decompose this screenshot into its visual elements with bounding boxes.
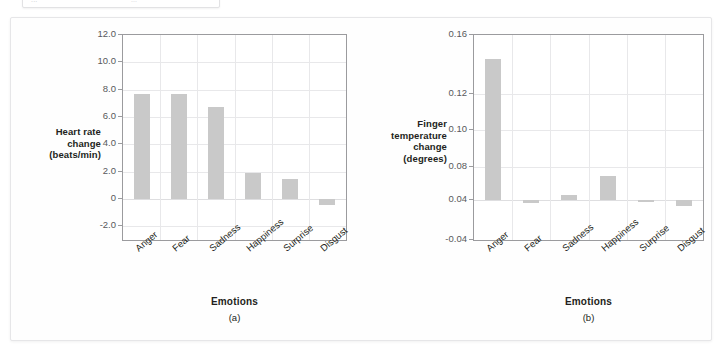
y-tick-label: 10.0	[80, 55, 116, 66]
y-axis-title-b-line3: change	[369, 141, 447, 153]
gridline-vertical	[589, 35, 590, 240]
y-tick-mark	[118, 89, 122, 90]
gridline-vertical	[197, 35, 198, 240]
gridline-vertical	[272, 35, 273, 240]
y-tick-label: 12.0	[80, 28, 116, 39]
gridline-vertical	[235, 35, 236, 240]
y-tick-label: -2.0	[80, 219, 116, 230]
y-tick-mark	[118, 116, 122, 117]
y-tick-mark	[118, 61, 122, 62]
y-tick-mark	[118, 143, 122, 144]
partial-toolbar-text-right: ...	[131, 0, 137, 3]
gridline-vertical	[512, 35, 513, 240]
y-axis-title-a-line1: Heart rate	[19, 126, 101, 138]
bar-sadness	[208, 107, 224, 199]
figure-screenshot: ... ... Heart rate change (beats/min) Em…	[0, 0, 721, 346]
y-tick-label: 6.0	[80, 110, 116, 121]
y-tick-mark	[118, 34, 122, 35]
chart-panel-b: Finger temperature change (degrees) Emot…	[361, 18, 711, 340]
y-tick-mark	[469, 93, 473, 94]
bar-anger	[134, 94, 150, 199]
panel-letter-a: (a)	[122, 312, 347, 323]
y-tick-label: 4.0	[80, 137, 116, 148]
plot-area-a	[122, 34, 347, 241]
y-tick-label: 0.16	[423, 28, 467, 39]
y-tick-mark	[118, 225, 122, 226]
x-axis-title-b: Emotions	[473, 296, 704, 307]
y-tick-mark	[118, 198, 122, 199]
y-tick-mark	[469, 199, 473, 200]
bar-happiness	[245, 173, 261, 199]
bar-surprise	[282, 179, 298, 200]
partial-toolbar-strip: ... ...	[22, 0, 220, 8]
y-tick-label: 0.08	[423, 160, 467, 171]
bar-sadness	[561, 195, 577, 200]
plot-area-b	[473, 34, 704, 241]
gridline-vertical	[550, 35, 551, 240]
y-axis-title-a-line3: (beats/min)	[19, 149, 101, 161]
y-tick-label: 0.04	[423, 193, 467, 204]
bar-happiness	[600, 176, 616, 201]
y-tick-label: 0	[80, 192, 116, 203]
gridline-vertical	[665, 35, 666, 240]
gridline-vertical	[160, 35, 161, 240]
chart-panel-a: Heart rate change (beats/min) Emotions (…	[11, 18, 371, 340]
partial-toolbar-text-left: ...	[31, 0, 37, 3]
y-tick-mark	[118, 171, 122, 172]
bar-surprise	[638, 200, 654, 201]
bar-anger	[485, 59, 501, 201]
bar-disgust	[676, 200, 692, 205]
y-tick-mark	[469, 166, 473, 167]
bar-fear	[523, 200, 539, 203]
y-tick-label: 8.0	[80, 83, 116, 94]
y-tick-mark	[469, 34, 473, 35]
y-tick-label: 0.12	[423, 87, 467, 98]
y-tick-label: 0.10	[423, 123, 467, 134]
panel-letter-b: (b)	[473, 312, 704, 323]
bar-disgust	[319, 199, 335, 205]
gridline-vertical	[627, 35, 628, 240]
y-tick-label: 2.0	[80, 165, 116, 176]
y-tick-mark	[469, 239, 473, 240]
x-axis-title-a: Emotions	[122, 296, 347, 307]
gridline-vertical	[309, 35, 310, 240]
figure-card: Heart rate change (beats/min) Emotions (…	[10, 17, 712, 341]
y-tick-mark	[469, 129, 473, 130]
bar-fear	[171, 94, 187, 199]
y-tick-label: -0.04	[423, 233, 467, 244]
